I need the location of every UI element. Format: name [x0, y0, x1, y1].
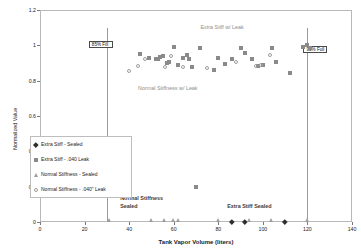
data-point [181, 65, 185, 69]
y-tick-mark [37, 116, 40, 117]
data-point [162, 218, 166, 222]
data-point [288, 71, 292, 75]
y-tick-label: 1.2 [22, 7, 36, 13]
y-tick-mark [37, 10, 40, 11]
y-tick-mark [37, 81, 40, 82]
data-point [171, 218, 175, 222]
x-tick-label: 100 [256, 226, 270, 232]
data-point [308, 46, 312, 50]
data-point [147, 56, 151, 60]
data-point [301, 45, 305, 49]
reference-line [307, 28, 308, 222]
x-tick-label: 140 [345, 226, 359, 232]
data-point [176, 63, 180, 67]
data-point [187, 57, 191, 61]
chart-annotation: Extra Stiff w/ Leak [200, 24, 243, 30]
data-point [229, 219, 234, 224]
data-point [176, 218, 180, 222]
data-point [247, 218, 251, 222]
x-tick-label: 80 [211, 226, 225, 232]
data-point [172, 45, 176, 49]
reference-line-callout: 85% Fill [89, 41, 113, 48]
x-tick-mark [263, 222, 264, 225]
x-tick-mark [85, 222, 86, 225]
data-point [270, 46, 274, 50]
y-axis-label: Normalized Value [12, 108, 18, 150]
data-point [198, 46, 202, 50]
x-tick-mark [129, 222, 130, 225]
data-point [259, 63, 263, 67]
legend-marker [34, 188, 38, 192]
y-tick-label: 0.6 [22, 113, 36, 119]
data-point [230, 57, 234, 61]
data-point [190, 65, 194, 69]
data-point [212, 68, 216, 72]
y-tick-mark [37, 45, 40, 46]
data-point [250, 57, 254, 61]
data-point [181, 56, 185, 60]
data-point [274, 60, 278, 64]
scatter-chart: 00.20.40.60.811.2 020406080100120140 Nor… [0, 0, 361, 249]
data-point [269, 218, 273, 222]
y-tick-label: 1 [22, 42, 36, 48]
legend-marker [34, 173, 38, 177]
y-tick-label: 0.8 [22, 78, 36, 84]
data-point [138, 52, 142, 56]
legend-label: Extra Stiff - Sealed [41, 141, 83, 147]
legend-label: Normal Stiffness - .040" Leak [41, 186, 106, 192]
chart-annotation: Sealed [120, 203, 137, 209]
x-tick-mark [352, 222, 353, 225]
legend-label: Normal Stiffness - Sealed [41, 171, 98, 177]
data-point [305, 218, 309, 222]
data-point [194, 185, 198, 189]
x-tick-mark [307, 222, 308, 225]
data-point [268, 53, 272, 57]
data-point [161, 54, 165, 58]
legend-label: Extra Stiff - .040 Leak [41, 156, 89, 162]
data-point [243, 51, 247, 55]
legend-marker [34, 158, 38, 162]
chart-annotation: Normal Stiffness w/ Leak [138, 85, 198, 91]
x-axis-label: Tank Vapor Volume (liters) [40, 239, 352, 245]
data-point [254, 64, 258, 68]
data-point [136, 64, 140, 68]
x-tick-mark [218, 222, 219, 225]
data-point [216, 56, 220, 60]
x-tick-label: 0 [33, 226, 47, 232]
x-tick-label: 20 [78, 226, 92, 232]
x-tick-mark [174, 222, 175, 225]
chart-annotation: Extra Stiff Sealed [227, 203, 271, 209]
data-point [107, 218, 111, 222]
data-point [167, 60, 171, 64]
x-tick-label: 40 [122, 226, 136, 232]
data-point [149, 218, 153, 222]
data-point [239, 46, 243, 50]
x-tick-mark [40, 222, 41, 225]
y-tick-label: 0 [22, 219, 36, 225]
data-point [216, 218, 220, 222]
x-tick-label: 120 [300, 226, 314, 232]
x-tick-label: 60 [167, 226, 181, 232]
data-point [223, 62, 227, 66]
